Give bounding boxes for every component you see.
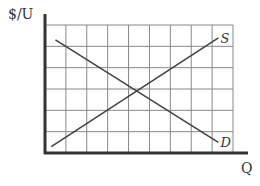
supply-demand-chart: $/U Q S D [0, 0, 260, 186]
x-axis-label: Q [241, 160, 252, 176]
plot-area: S D [0, 0, 260, 186]
supply-curve-label: S [220, 31, 229, 46]
supply-curve [51, 38, 218, 147]
y-axis-label: $/U [8, 6, 33, 22]
demand-curve-label: D [219, 135, 231, 150]
